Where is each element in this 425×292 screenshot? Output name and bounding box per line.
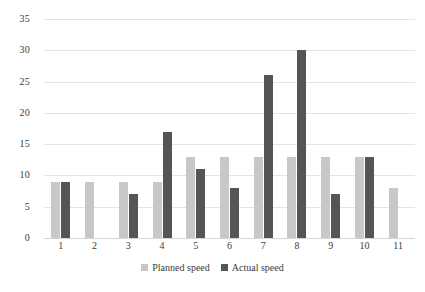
bar-group [355, 19, 374, 238]
bar-actual-speed [163, 132, 172, 238]
planned-swatch-icon [141, 264, 148, 271]
gridline [44, 238, 415, 239]
bar-planned-speed [51, 182, 60, 238]
bar-group [51, 19, 70, 238]
bar-group [119, 19, 138, 238]
x-axis-tick-label: 6 [219, 240, 241, 252]
bar-actual-speed [196, 169, 205, 238]
bar-planned-speed [85, 182, 94, 238]
bar-planned-speed [321, 157, 330, 238]
bar-planned-speed [153, 182, 162, 238]
y-axis-tick-label: 10 [0, 170, 30, 180]
legend-label-planned-speed: Planned speed [152, 262, 210, 273]
y-axis-tick-label: 15 [0, 139, 30, 149]
bar-group [287, 19, 306, 238]
x-axis-tick-label: 8 [286, 240, 308, 252]
y-axis-tick-label: 25 [0, 77, 30, 87]
actual-swatch-icon [221, 264, 228, 271]
bar-actual-speed [264, 75, 273, 238]
x-axis-tick-label: 5 [185, 240, 207, 252]
legend-item-actual-speed: Actual speed [221, 262, 284, 273]
bar-planned-speed [119, 182, 128, 238]
bar-planned-speed [186, 157, 195, 238]
bar-actual-speed [61, 182, 70, 238]
bar-actual-speed [297, 50, 306, 238]
bar-group [321, 19, 340, 238]
legend-label-actual-speed: Actual speed [232, 262, 284, 273]
x-axis-tick-label: 9 [320, 240, 342, 252]
bar-planned-speed [220, 157, 229, 238]
bar-group [220, 19, 239, 238]
y-axis-tick-label: 30 [0, 45, 30, 55]
plot-area: 05101520253035 [44, 19, 415, 238]
bar-actual-speed [129, 194, 138, 238]
bar-actual-speed [365, 157, 374, 238]
bar-group [389, 19, 408, 238]
chart-legend: Planned speed Actual speed [0, 262, 425, 273]
bar-group [254, 19, 273, 238]
y-axis-tick-label: 20 [0, 108, 30, 118]
bar-planned-speed [287, 157, 296, 238]
bar-group [153, 19, 172, 238]
bar-actual-speed [331, 194, 340, 238]
x-axis-tick-label: 11 [387, 240, 409, 252]
bar-group [85, 19, 104, 238]
bar-planned-speed [254, 157, 263, 238]
bar-planned-speed [389, 188, 398, 238]
y-axis-tick-label: 0 [0, 233, 30, 243]
x-axis-tick-label: 2 [84, 240, 106, 252]
y-axis-tick-label: 5 [0, 202, 30, 212]
legend-item-planned-speed: Planned speed [141, 262, 210, 273]
y-axis-tick-label: 35 [0, 14, 30, 24]
bar-group [186, 19, 205, 238]
x-axis-tick-label: 7 [252, 240, 274, 252]
bar-planned-speed [355, 157, 364, 238]
x-axis-tick-label: 4 [151, 240, 173, 252]
bar-actual-speed [230, 188, 239, 238]
x-axis-tick-label: 10 [353, 240, 375, 252]
bar-chart: 05101520253035 1234567891011 Planned spe… [0, 0, 425, 292]
bars-layer [44, 19, 415, 238]
x-axis-ticks: 1234567891011 [44, 240, 415, 256]
x-axis-tick-label: 3 [117, 240, 139, 252]
x-axis-tick-label: 1 [50, 240, 72, 252]
